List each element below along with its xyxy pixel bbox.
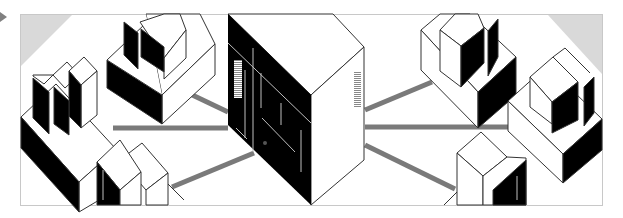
illustration-canvas (0, 0, 623, 218)
server-front-vent (234, 60, 242, 98)
network-illustration: isometric network diagram: central serve… (0, 0, 623, 218)
server-power-led (263, 141, 267, 145)
pointer-arrow-icon (0, 12, 7, 22)
server-side-vent (354, 72, 361, 107)
